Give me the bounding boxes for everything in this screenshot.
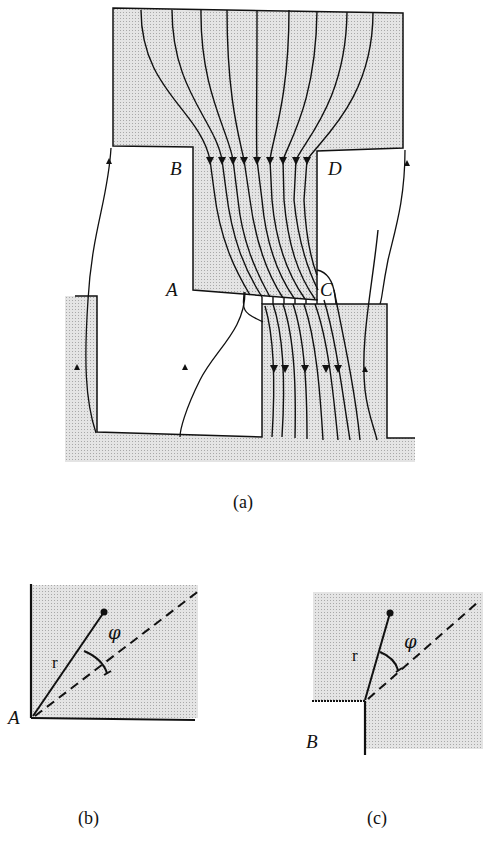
figure-canvas: B D A C (a) r φ A (b) r φ B (c) (0, 0, 492, 850)
point-b (101, 609, 108, 616)
label-B: B (170, 158, 182, 179)
caption-c: (c) (367, 808, 387, 829)
angle-label-c: φ (404, 631, 417, 652)
label-A: A (164, 279, 178, 300)
corner-label-b: A (6, 707, 20, 728)
caption-b: (b) (78, 808, 99, 829)
corner-label-c: B (306, 731, 318, 752)
panel-b: r φ A (b) (6, 584, 200, 829)
radius-label-b: r (52, 653, 58, 672)
bottom-conductor (65, 296, 415, 462)
panel-a: B D A C (a) (65, 8, 415, 513)
point-c (387, 610, 394, 617)
label-D: D (327, 158, 342, 179)
caption-a: (a) (233, 492, 253, 513)
angle-label-b: φ (108, 622, 121, 643)
panel-c: r φ B (c) (300, 592, 483, 829)
top-conductor (113, 8, 403, 300)
wall-horizontal-b (31, 718, 195, 720)
radius-label-c: r (352, 646, 358, 665)
label-C: C (320, 279, 333, 300)
shaded-quadrant-b (32, 585, 198, 718)
